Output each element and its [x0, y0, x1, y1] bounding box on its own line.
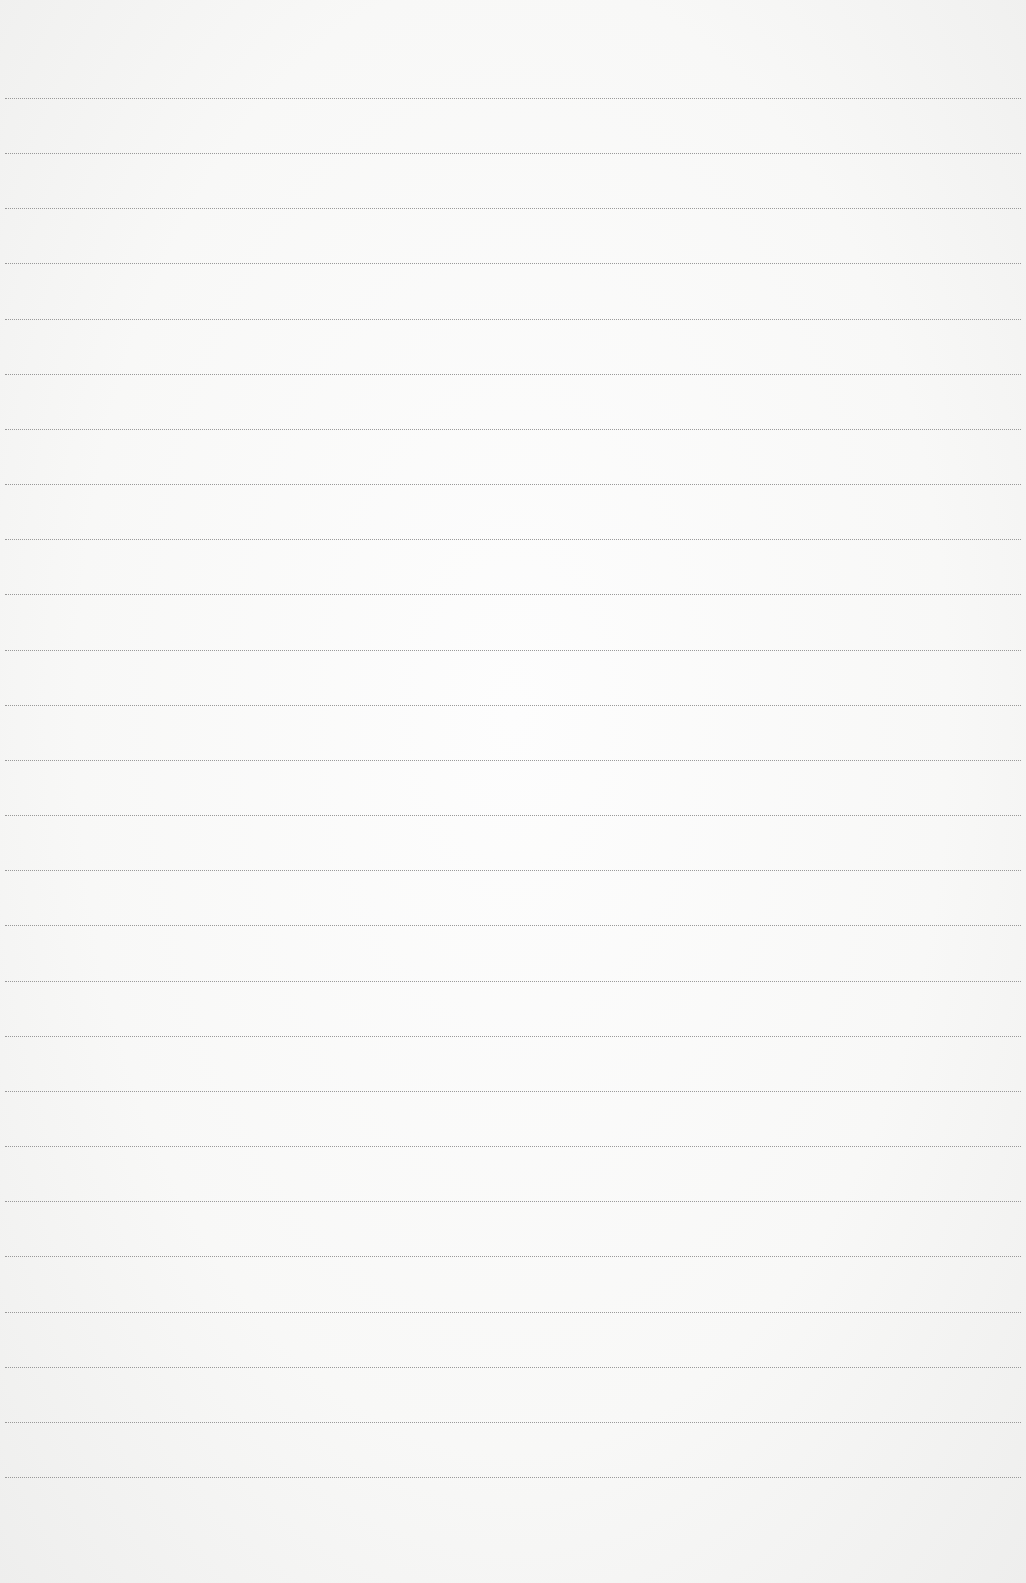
ruled-line — [5, 1256, 1021, 1257]
ruled-line — [5, 760, 1021, 761]
ruled-line — [5, 1477, 1021, 1478]
ruled-line — [5, 319, 1021, 320]
ruled-line — [5, 1312, 1021, 1313]
ruled-line — [5, 870, 1021, 871]
ruled-line — [5, 594, 1021, 595]
ruled-line — [5, 153, 1021, 154]
ruled-line — [5, 208, 1021, 209]
ruled-line — [5, 1036, 1021, 1037]
ruled-line — [5, 1201, 1021, 1202]
ruled-line — [5, 263, 1021, 264]
ruled-line — [5, 1091, 1021, 1092]
ruled-line — [5, 925, 1021, 926]
ruled-line — [5, 981, 1021, 982]
ruled-line — [5, 429, 1021, 430]
ruled-line — [5, 374, 1021, 375]
ruled-line — [5, 539, 1021, 540]
ruled-line — [5, 1367, 1021, 1368]
ruled-line — [5, 705, 1021, 706]
ruled-line — [5, 98, 1021, 99]
ruled-line — [5, 1146, 1021, 1147]
ruled-line — [5, 1422, 1021, 1423]
ruled-line — [5, 815, 1021, 816]
ruled-line — [5, 650, 1021, 651]
lined-paper-sheet — [0, 0, 1026, 1583]
ruled-line — [5, 484, 1021, 485]
